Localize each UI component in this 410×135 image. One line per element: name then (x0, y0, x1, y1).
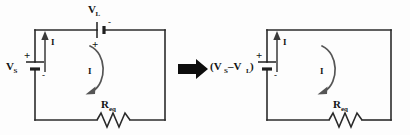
load-voltage-source-symbol (97, 22, 104, 38)
load-voltage-label-subscript: L (96, 10, 101, 18)
right-loop-current-curve (322, 46, 335, 91)
equivalent-voltage-label-close: ) (250, 60, 254, 73)
diagram-svg: V L + - V S + - I (0, 0, 410, 135)
right-resistor-label-subscript: eq (341, 105, 348, 113)
left-resistor-label-subscript: eq (109, 105, 116, 113)
source-voltage-label-subscript: S (14, 67, 18, 75)
left-branch-current-label: I (51, 37, 55, 47)
equivalent-voltage-label-open: (V (210, 60, 222, 73)
right-circuit-group: (V S –V L ) + - I I R eq (210, 30, 391, 127)
left-branch-current-arrowhead (41, 31, 48, 40)
left-branch-current-arrow (41, 31, 48, 72)
equivalent-voltage-label-mid: –V (227, 60, 242, 72)
left-loop-current-arrowhead (86, 87, 96, 95)
right-loop-current-arrowhead (318, 87, 328, 95)
transform-arrow-group (178, 59, 208, 79)
left-circuit-group: V L + - V S + - I (6, 3, 165, 127)
right-branch-current-arrowhead (273, 31, 280, 40)
left-loop-current-label: I (88, 66, 92, 76)
left-loop-current-curve (90, 46, 103, 91)
veq-plus-sign: + (256, 49, 262, 61)
circuit-diagram-canvas: V L + - V S + - I (0, 0, 410, 135)
implies-arrow-icon (178, 59, 208, 79)
source-voltage-symbol (26, 62, 44, 69)
vs-plus-sign: + (24, 49, 30, 61)
vl-minus-sign: - (108, 17, 111, 27)
right-branch-current-label: I (283, 37, 287, 47)
left-resistor-symbol (97, 113, 130, 127)
right-branch-current-arrow (273, 31, 280, 72)
right-loop-current-label: I (320, 66, 324, 76)
equivalent-voltage-source-symbol (258, 62, 276, 69)
right-resistor-symbol (329, 113, 362, 127)
